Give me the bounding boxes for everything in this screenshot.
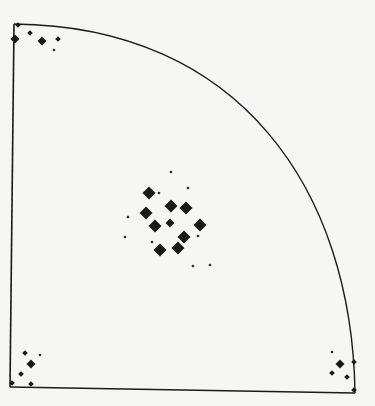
pole-figure [0, 0, 375, 406]
